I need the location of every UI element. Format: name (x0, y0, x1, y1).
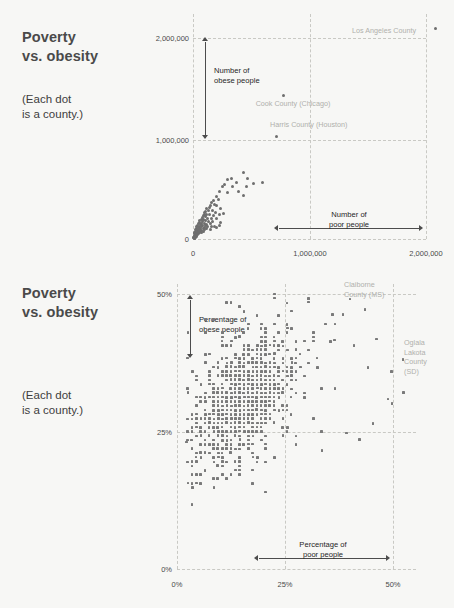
scatter-point (273, 396, 276, 399)
gridline-x-0pct (177, 284, 178, 569)
scatter-point (264, 344, 267, 347)
ytick-label-2000000: 2,000,000 (131, 34, 189, 43)
scatter-point (234, 434, 237, 437)
scatter-point (247, 361, 250, 364)
scatter-point (243, 310, 246, 313)
scatter-point (212, 447, 215, 450)
scatter-point (290, 379, 293, 382)
scatter-point (225, 447, 228, 450)
gridline-y-0pct (177, 569, 416, 570)
scatter-point (187, 331, 190, 334)
scatter-point (208, 213, 211, 216)
scatter-point (217, 422, 220, 425)
scatter-point (234, 448, 237, 451)
scatter-point (234, 430, 237, 433)
scatter-point (238, 465, 241, 468)
scatter-point (260, 370, 263, 373)
scatter-point (225, 421, 228, 424)
scatter-point (199, 430, 202, 433)
scatter-point (256, 387, 259, 390)
scatter-point (282, 357, 285, 360)
scatter-point (269, 417, 272, 420)
scatter-point (247, 383, 250, 386)
scatter-point (290, 374, 293, 377)
scatter-point (247, 370, 250, 373)
scatter-point (234, 421, 237, 424)
scatter-point (221, 409, 224, 412)
scatter-point (290, 357, 293, 360)
scatter-point (321, 449, 324, 452)
scatter-point (221, 357, 224, 360)
gridline-x-2000000 (426, 14, 427, 239)
y-axis-annotation-arrow (205, 42, 206, 138)
scatter-point (282, 387, 285, 390)
scatter-point (234, 409, 237, 412)
scatter-point (216, 464, 219, 467)
scatter-point (199, 451, 202, 454)
scatter-point (186, 418, 189, 421)
scatter-point (290, 327, 293, 330)
gridline-x-0 (193, 14, 194, 239)
scatter-point (230, 405, 233, 408)
scatter-point (260, 357, 263, 360)
scatter-point (275, 135, 278, 138)
scatter-point (295, 443, 298, 446)
scatter-point (269, 391, 272, 394)
scatter-point (264, 327, 267, 330)
scatter-point (204, 469, 207, 472)
scatter-point (212, 409, 215, 412)
scatter-point (264, 417, 267, 420)
scatter-point (247, 404, 250, 407)
scatter-point (230, 426, 233, 429)
scatter-point (216, 426, 219, 429)
scatter-point (186, 387, 189, 390)
scatter-point (282, 362, 285, 365)
scatter-point (260, 323, 263, 326)
scatter-point (212, 413, 215, 416)
scatter-point (277, 383, 280, 386)
scatter-point (199, 426, 202, 429)
scatter-point (195, 482, 198, 485)
scatter-point (204, 413, 207, 416)
scatter-point (204, 451, 207, 454)
scatter-point (234, 396, 237, 399)
scatter-point (215, 217, 218, 220)
scatter-point (434, 27, 437, 30)
scatter-point (342, 313, 345, 316)
scatter-point (264, 362, 267, 365)
scatter-point (199, 400, 202, 403)
scatter-point (286, 409, 289, 412)
scatter-point (264, 379, 267, 382)
scatter-point (243, 396, 246, 399)
scatter-point (234, 469, 237, 472)
scatter-point (221, 387, 224, 390)
scatter-point (316, 366, 319, 369)
scatter-point (234, 413, 237, 416)
scatter-point (349, 298, 352, 301)
arrow-left-icon (254, 555, 258, 561)
scatter-point (260, 413, 263, 416)
scatter-point (238, 305, 241, 308)
scatter-point (215, 204, 218, 207)
scatter-point (200, 417, 203, 420)
scatter-point (255, 361, 258, 364)
scatter-point (212, 426, 215, 429)
scatter-point (243, 413, 246, 416)
scatter-point (199, 396, 202, 399)
scatter-point (200, 383, 203, 386)
scatter-point (208, 374, 211, 377)
scatter-point (217, 404, 220, 407)
scatter-point (238, 443, 241, 446)
scatter-point (260, 400, 263, 403)
scatter-point (208, 443, 211, 446)
scatter-point (260, 361, 263, 364)
scatter-point (256, 314, 259, 317)
scatter-point (307, 349, 310, 352)
scatter-point (243, 426, 246, 429)
scatter-point (226, 435, 229, 438)
scatter-point (247, 400, 250, 403)
scatter-point (282, 345, 285, 348)
scatter-point (286, 426, 289, 429)
scatter-point (238, 400, 241, 403)
scatter-point (208, 421, 211, 424)
